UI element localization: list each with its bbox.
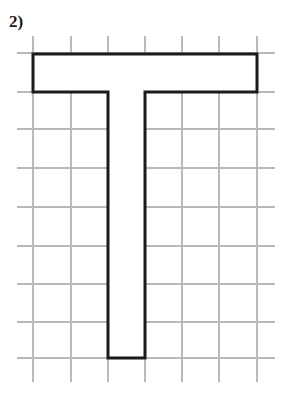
letter-t-figure [0, 0, 287, 402]
worksheet-page: 2) [0, 0, 287, 402]
